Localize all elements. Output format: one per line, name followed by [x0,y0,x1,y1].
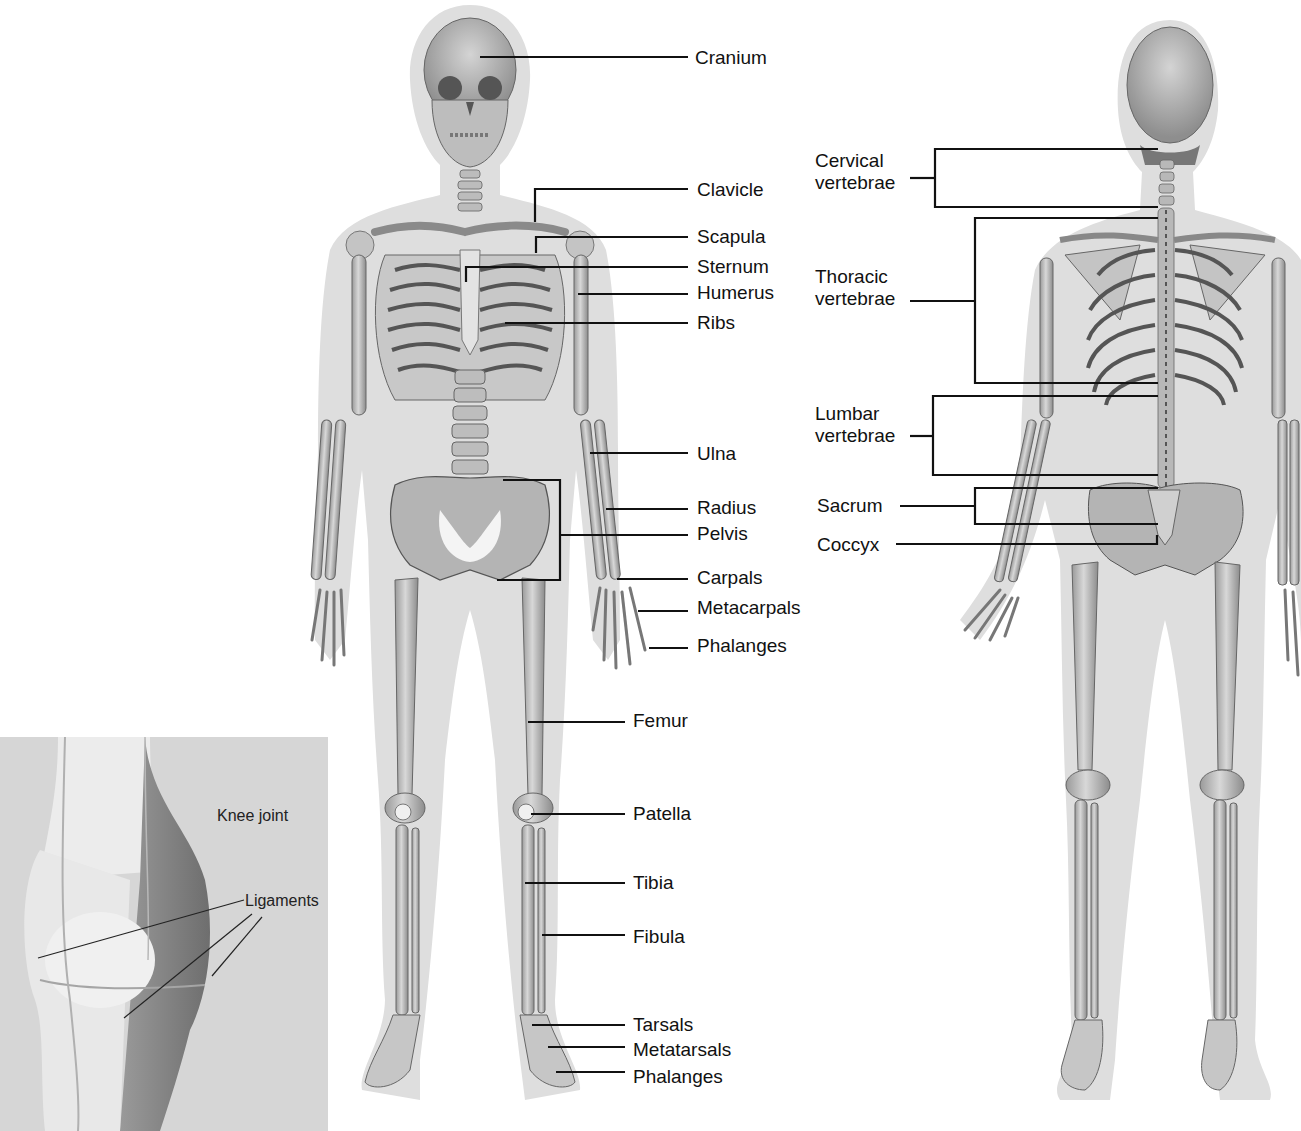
bone-label-front: Tibia [633,872,673,894]
bone-label-front: Tarsals [633,1014,693,1036]
bone-label-back: Coccyx [817,534,879,556]
bone-label-front: Carpals [697,567,762,589]
bone-label-front: Patella [633,803,691,825]
bone-label-front: Cranium [695,47,767,69]
bone-label-front: Phalanges [697,635,787,657]
bone-label-front: Scapula [697,226,766,248]
bone-label-back: Sacrum [817,495,882,517]
bone-label-front: Ribs [697,312,735,334]
bone-label-back: Cervicalvertebrae [815,150,895,194]
bone-label-back: Thoracicvertebrae [815,266,895,310]
leader-lines [466,57,1158,1072]
bone-label-front: Humerus [697,282,774,304]
bone-label-front: Ulna [697,443,736,465]
knee-joint-title: Knee joint [217,805,288,827]
ligaments-label: Ligaments [245,890,319,912]
bone-label-front: Fibula [633,926,685,948]
bone-label-front: Metatarsals [633,1039,731,1061]
bone-label-front: Radius [697,497,756,519]
bone-label-front: Clavicle [697,179,764,201]
bone-label-front: Pelvis [697,523,748,545]
bone-label-front: Phalanges [633,1066,723,1088]
leader-line [935,149,1158,207]
knee-joint-inset [0,737,328,1131]
back-skeleton [960,20,1301,1100]
bone-label-front: Metacarpals [697,597,801,619]
skeleton-illustration [0,0,1301,1131]
bone-label-front: Sternum [697,256,769,278]
bone-label-front: Femur [633,710,688,732]
bone-label-back: Lumbarvertebrae [815,403,895,447]
skeleton-diagram: CraniumClavicleScapulaSternumHumerusRibs… [0,0,1301,1131]
